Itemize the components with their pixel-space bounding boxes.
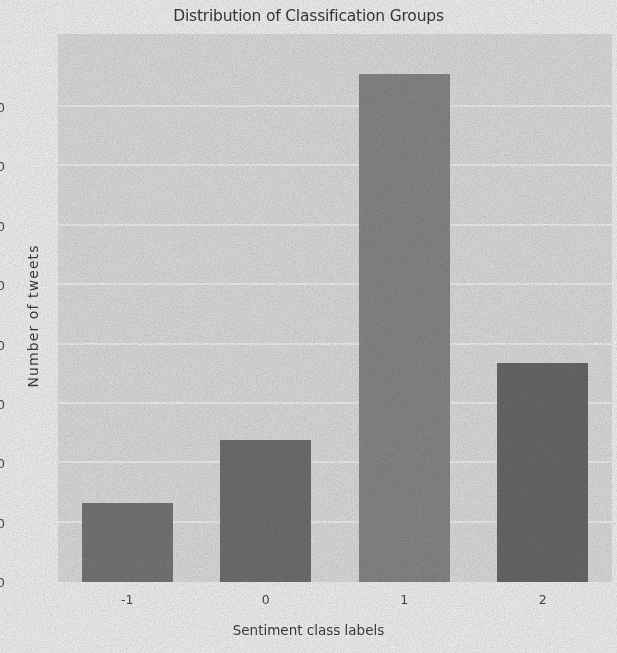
gridline xyxy=(58,224,612,226)
y-tick-label: 0 xyxy=(0,575,5,590)
x-axis-label: Sentiment class labels xyxy=(0,622,617,638)
chart-figure: Distribution of Classification Groups 01… xyxy=(0,0,617,653)
x-tick-label: 1 xyxy=(400,592,408,607)
y-tick-label: 2000 xyxy=(0,456,5,471)
y-tick-label: 3000 xyxy=(0,396,5,411)
gridline xyxy=(58,105,612,107)
y-tick-label: 7000 xyxy=(0,159,5,174)
y-tick-label: 4000 xyxy=(0,337,5,352)
bar xyxy=(220,440,311,582)
gridline xyxy=(58,343,612,345)
x-tick-label: 2 xyxy=(539,592,547,607)
bar xyxy=(359,74,450,582)
y-tick-label: 1000 xyxy=(0,515,5,530)
x-tick-label: 0 xyxy=(262,592,270,607)
bar xyxy=(497,363,588,582)
bar xyxy=(82,503,173,582)
gridline xyxy=(58,283,612,285)
gridline xyxy=(58,164,612,166)
y-tick-label: 5000 xyxy=(0,278,5,293)
y-tick-label: 8000 xyxy=(0,100,5,115)
plot-area xyxy=(58,34,612,582)
x-tick-label: -1 xyxy=(121,592,133,607)
y-axis-label: Number of tweets xyxy=(25,186,41,446)
chart-title: Distribution of Classification Groups xyxy=(0,7,617,25)
y-tick-label: 6000 xyxy=(0,218,5,233)
